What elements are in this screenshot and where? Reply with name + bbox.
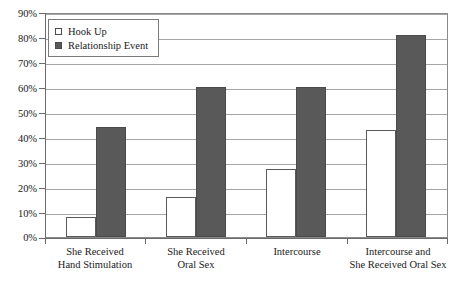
x-tick-mark-0 [45, 239, 46, 244]
category-label-4-line1: Intercourse and [337, 246, 459, 259]
y-tick-label-30: 30% [1, 159, 37, 169]
legend-swatch-filled-square-icon [55, 42, 62, 49]
y-tick-label-10: 10% [1, 209, 37, 219]
bar-relationship-event-1 [96, 127, 126, 237]
category-label-1-line2: Hand Stimulation [45, 259, 145, 272]
y-tick-label-40: 40% [1, 134, 37, 144]
category-label-1: She Received Hand Stimulation [45, 246, 145, 271]
category-label-2-line1: She Received [146, 246, 246, 259]
x-tick-mark-1 [145, 239, 146, 244]
category-label-2: She Received Oral Sex [146, 246, 246, 271]
y-tick-label-70: 70% [1, 59, 37, 69]
y-axis-labels: 90% 80% 70% 60% 50% 40% 30% 20% 10% 0% [0, 0, 37, 297]
y-tick-label-80: 80% [1, 34, 37, 44]
bar-relationship-event-2 [196, 87, 226, 237]
bar-relationship-event-4 [396, 35, 426, 237]
legend-item-hook-up: Hook Up [55, 24, 148, 38]
y-axis-line [45, 13, 46, 239]
bar-group-3 [246, 14, 346, 237]
category-label-3-line1: Intercourse [247, 246, 347, 259]
category-label-4: Intercourse and She Received Oral Sex [337, 246, 459, 271]
bar-chart: 90% 80% 70% 60% 50% 40% 30% 20% 10% 0% [0, 0, 467, 297]
x-tick-mark-2 [246, 239, 247, 244]
category-label-1-line1: She Received [45, 246, 145, 259]
y-tick-label-60: 60% [1, 84, 37, 94]
x-tick-mark-4 [447, 239, 448, 244]
chart-legend: Hook Up Relationship Event [48, 19, 159, 57]
category-label-3: Intercourse [247, 246, 347, 259]
legend-label-hook-up: Hook Up [68, 26, 107, 37]
bar-group-4 [346, 14, 446, 237]
y-tick-label-90: 90% [1, 9, 37, 19]
legend-label-relationship-event: Relationship Event [68, 40, 148, 51]
bar-hook-up-1 [66, 217, 96, 237]
legend-item-relationship-event: Relationship Event [55, 38, 148, 52]
y-tick-label-20: 20% [1, 184, 37, 194]
category-label-2-line2: Oral Sex [146, 259, 246, 272]
legend-swatch-open-square-icon [55, 28, 62, 35]
category-label-4-line2: She Received Oral Sex [337, 259, 459, 272]
y-tick-label-50: 50% [1, 109, 37, 119]
y-tick-label-0: 0% [1, 233, 37, 243]
x-tick-mark-3 [347, 239, 348, 244]
bar-hook-up-3 [266, 169, 296, 237]
bar-hook-up-4 [366, 130, 396, 237]
bar-hook-up-2 [166, 197, 196, 237]
bar-group-2 [146, 14, 246, 237]
bar-relationship-event-3 [296, 87, 326, 237]
